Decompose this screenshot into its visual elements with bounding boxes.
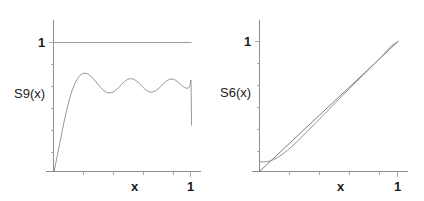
x-axis-label-s6: x — [337, 180, 344, 193]
series-label-s6: S6(x) — [220, 86, 251, 99]
x-axis-label-s9: x — [131, 180, 138, 193]
y-axis-tick-label-1-s6: 1 — [244, 35, 251, 48]
gibbs-phenomenon-figure: 1 S9(x) x 1 — [0, 0, 424, 201]
curve-s9-partial-sum — [54, 73, 191, 171]
series-label-s9: S9(x) — [14, 87, 45, 100]
plot-panel-s6: 1 S6(x) x 1 — [212, 0, 424, 201]
plot-panel-s9: 1 S9(x) x 1 — [0, 0, 212, 201]
curve-s6-partial-sum — [260, 42, 398, 162]
x-axis-tick-label-1-s9: 1 — [187, 180, 194, 193]
x-axis-tick-label-1-s6: 1 — [394, 180, 401, 193]
y-axis-tick-label-1-s9: 1 — [38, 36, 45, 49]
plot-canvas-s6 — [212, 0, 424, 201]
